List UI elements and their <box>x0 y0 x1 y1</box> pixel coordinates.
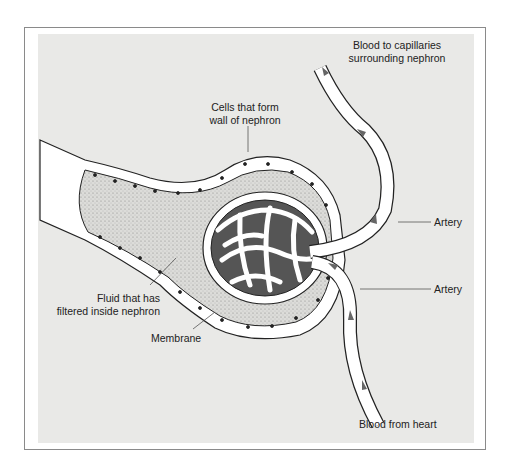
label-membrane: Membrane <box>151 332 201 345</box>
label-line: Blood to capillaries <box>332 39 462 52</box>
label-cells-wall: Cells that form wall of nephron <box>190 101 300 127</box>
label-line: surrounding nephron <box>332 52 462 65</box>
glomerulus <box>203 192 327 304</box>
label-blood-from-heart: Blood from heart <box>359 418 437 431</box>
label-fluid: Fluid that has filtered inside nephron <box>40 292 160 318</box>
label-artery-upper: Artery <box>434 216 462 229</box>
label-line: Fluid that has <box>40 292 160 305</box>
label-line: wall of nephron <box>190 114 300 127</box>
label-blood-to-capillaries: Blood to capillaries surrounding nephron <box>332 39 462 65</box>
label-line: Cells that form <box>190 101 300 114</box>
nephron-illustration <box>0 0 507 472</box>
label-line: filtered inside nephron <box>40 305 160 318</box>
label-artery-lower: Artery <box>434 283 462 296</box>
